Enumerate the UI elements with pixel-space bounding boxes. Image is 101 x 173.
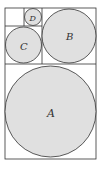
- label-b: B: [65, 31, 73, 42]
- golden-rectangle-diagram: A B C D: [0, 0, 101, 173]
- label-c: C: [20, 41, 28, 52]
- label-d: D: [29, 14, 37, 23]
- label-a: A: [46, 107, 55, 120]
